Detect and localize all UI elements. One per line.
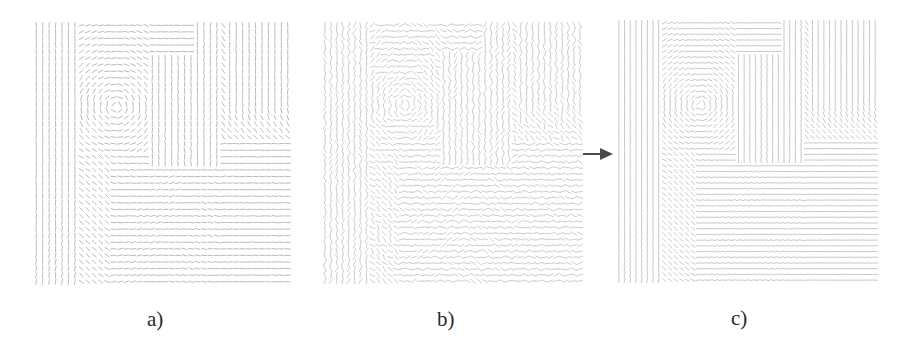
right-arrow-icon bbox=[583, 144, 615, 164]
panel-label-c: c) bbox=[731, 308, 747, 329]
orientation-field-b bbox=[322, 22, 583, 284]
orientation-field-a bbox=[33, 22, 291, 285]
panel-c-smoothed-field bbox=[616, 20, 878, 283]
orientation-field-c bbox=[616, 20, 878, 283]
panel-b-noisy-field bbox=[322, 22, 583, 284]
panel-a-original-field bbox=[33, 22, 291, 285]
panel-label-b: b) bbox=[437, 309, 455, 330]
panel-label-a: a) bbox=[147, 309, 163, 330]
